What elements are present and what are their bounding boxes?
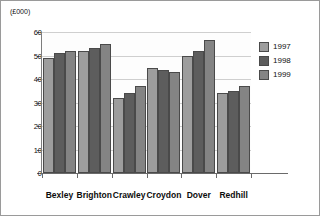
bar-bexley-1998 — [54, 53, 65, 173]
plot-area — [42, 32, 251, 173]
chart-legend: 199719981999 — [259, 38, 311, 84]
bar-brighton-1999 — [100, 44, 111, 173]
legend-label: 1998 — [273, 56, 291, 65]
bar-croydon-1997 — [147, 68, 158, 173]
bar-croydon-1998 — [158, 70, 169, 173]
y-axis-tick-label: 10 — [12, 146, 42, 155]
legend-label: 1997 — [273, 42, 291, 51]
bar-redhill-1998 — [228, 91, 239, 173]
x-axis-tick — [147, 174, 148, 178]
y-axis: 0102030405060 — [1, 1, 42, 216]
y-axis-tick-label: 60 — [12, 28, 42, 37]
y-axis-tick-label: 40 — [12, 75, 42, 84]
x-axis-tick — [251, 174, 252, 178]
x-axis-tick — [181, 174, 182, 178]
bar-dover-1999 — [204, 40, 215, 173]
bar-group — [43, 32, 76, 173]
legend-label: 1999 — [273, 70, 291, 79]
bar-bexley-1997 — [43, 58, 54, 173]
bar-brighton-1998 — [89, 48, 100, 173]
bar-crawley-1997 — [113, 98, 124, 173]
x-axis-tick — [216, 174, 217, 178]
y-axis-tick-label: 0 — [12, 169, 42, 178]
bar-crawley-1999 — [135, 86, 146, 173]
bar-group — [182, 32, 215, 173]
legend-swatch-icon — [259, 56, 269, 66]
x-axis-label-dover: Dover — [187, 190, 211, 200]
x-axis-label-brighton: Brighton — [77, 190, 112, 200]
x-axis-tick — [77, 174, 78, 178]
x-axis-tick — [112, 174, 113, 178]
bar-chart-figure: (£000) 0102030405060 199719981999 Bexley… — [0, 0, 320, 216]
bar-group — [147, 32, 180, 173]
bar-croydon-1999 — [169, 72, 180, 173]
bar-brighton-1997 — [78, 51, 89, 173]
legend-item-1997[interactable]: 1997 — [259, 40, 311, 53]
x-axis-tick — [42, 174, 43, 178]
bar-dover-1997 — [182, 56, 193, 174]
bar-bexley-1999 — [65, 51, 76, 173]
x-axis-label-bexley: Bexley — [46, 190, 73, 200]
y-axis-tick-label: 20 — [12, 122, 42, 131]
bar-redhill-1999 — [239, 86, 250, 173]
bar-crawley-1998 — [124, 93, 135, 173]
x-axis-label-croydon: Croydon — [146, 190, 181, 200]
bar-group — [217, 32, 250, 173]
x-axis-label-redhill: Redhill — [219, 190, 247, 200]
legend-item-1998[interactable]: 1998 — [259, 54, 311, 67]
legend-item-1999[interactable]: 1999 — [259, 68, 311, 81]
bar-dover-1998 — [193, 51, 204, 173]
y-axis-tick-label: 50 — [12, 52, 42, 61]
bar-group — [78, 32, 111, 173]
bar-group — [113, 32, 146, 173]
y-axis-tick-label: 30 — [12, 99, 42, 108]
x-axis-label-crawley: Crawley — [113, 190, 146, 200]
legend-swatch-icon — [259, 42, 269, 52]
bar-redhill-1997 — [217, 93, 228, 173]
legend-swatch-icon — [259, 70, 269, 80]
